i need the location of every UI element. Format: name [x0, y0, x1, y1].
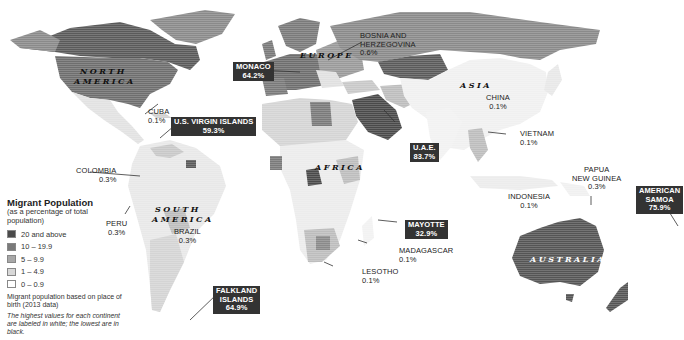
label-value: 0.1%: [399, 256, 453, 265]
continent-label-line: NORTH: [80, 66, 136, 76]
callout-uae: U.A.E. 83.7%: [410, 143, 439, 162]
callout-us-virgin-islands: U.S. VIRGIN ISLANDS 59.3%: [171, 117, 256, 136]
continent-europe: EUROPE: [300, 50, 354, 60]
continent-label-line: AMERICA: [152, 214, 214, 224]
label-value: 0.1%: [508, 202, 550, 211]
legend-subtitle: (as a percentage of total population): [7, 208, 127, 225]
legend-label: 1 – 4.9: [21, 267, 44, 276]
legend-label: 20 and above: [21, 230, 66, 239]
callout-value: 83.7%: [413, 153, 436, 162]
legend: Migrant Population (as a percentage of t…: [7, 197, 127, 336]
legend-item: 20 and above: [7, 228, 127, 241]
label-value: 0.3%: [572, 183, 621, 192]
legend-item: 10 – 19.9: [7, 241, 127, 254]
legend-item: 0 – 0.9: [7, 278, 127, 291]
label-colombia: COLOMBIA 0.3%: [76, 167, 116, 184]
label-value: 0.1%: [362, 277, 399, 286]
legend-swatch: [7, 243, 16, 251]
label-value: 0.1%: [148, 117, 169, 126]
continent-south-america: SOUTH AMERICA: [152, 204, 214, 224]
legend-swatch: [7, 280, 16, 288]
legend-swatch: [7, 255, 16, 263]
label-china: CHINA 0.1%: [486, 94, 510, 111]
legend-italic-note: The highest values for each continent ar…: [7, 312, 127, 336]
legend-label: 5 – 9.9: [21, 255, 44, 264]
continent-australia: AUSTRALIA: [530, 254, 606, 264]
callout-mayotte: MAYOTTE 32.9%: [405, 220, 448, 239]
callout-value: 64.2%: [236, 72, 271, 81]
legend-label: 0 – 0.9: [21, 280, 44, 289]
callout-value: 64.9%: [216, 304, 257, 313]
continent-africa: AFRICA: [315, 162, 365, 172]
callout-value: 75.9%: [639, 204, 680, 213]
legend-swatch: [7, 268, 16, 276]
label-papua-new-guinea: PAPUA NEW GUINEA 0.3%: [572, 166, 621, 192]
label-value: 0.6%: [360, 49, 416, 58]
label-bosnia-and-herzegovina: BOSNIA AND HERZEGOVINA 0.6%: [360, 32, 416, 58]
continent-label-line: SOUTH: [155, 204, 214, 214]
label-value: 0.1%: [486, 103, 510, 112]
label-brazil: BRAZIL 0.3%: [174, 228, 201, 245]
callout-value: 59.3%: [174, 127, 253, 136]
legend-note: Migrant population based on place of bir…: [7, 293, 127, 309]
callout-monaco: MONACO 64.2%: [233, 62, 274, 81]
label-cuba: CUBA 0.1%: [148, 108, 169, 125]
legend-item: 1 – 4.9: [7, 266, 127, 279]
continent-label-line: AMERICA: [74, 76, 136, 86]
label-madagascar: MADAGASCAR 0.1%: [399, 247, 453, 264]
label-vietnam: VIETNAM 0.1%: [520, 130, 554, 147]
legend-swatch: [7, 230, 16, 238]
callout-american-samoa: AMERICAN SAMOA 75.9%: [636, 186, 683, 214]
legend-label: 10 – 19.9: [21, 242, 52, 251]
callout-falkland-islands: FALKLAND ISLANDS 64.9%: [213, 286, 260, 314]
label-value: 0.3%: [174, 237, 201, 246]
label-indonesia: INDONESIA 0.1%: [508, 193, 550, 210]
continent-north-america: NORTH AMERICA: [80, 66, 136, 86]
callout-value: 32.9%: [408, 230, 445, 239]
legend-item: 5 – 9.9: [7, 253, 127, 266]
label-value: 0.1%: [520, 139, 554, 148]
continent-asia: ASIA: [460, 80, 492, 90]
label-lesotho: LESOTHO 0.1%: [362, 268, 399, 285]
label-value: 0.3%: [76, 176, 116, 185]
